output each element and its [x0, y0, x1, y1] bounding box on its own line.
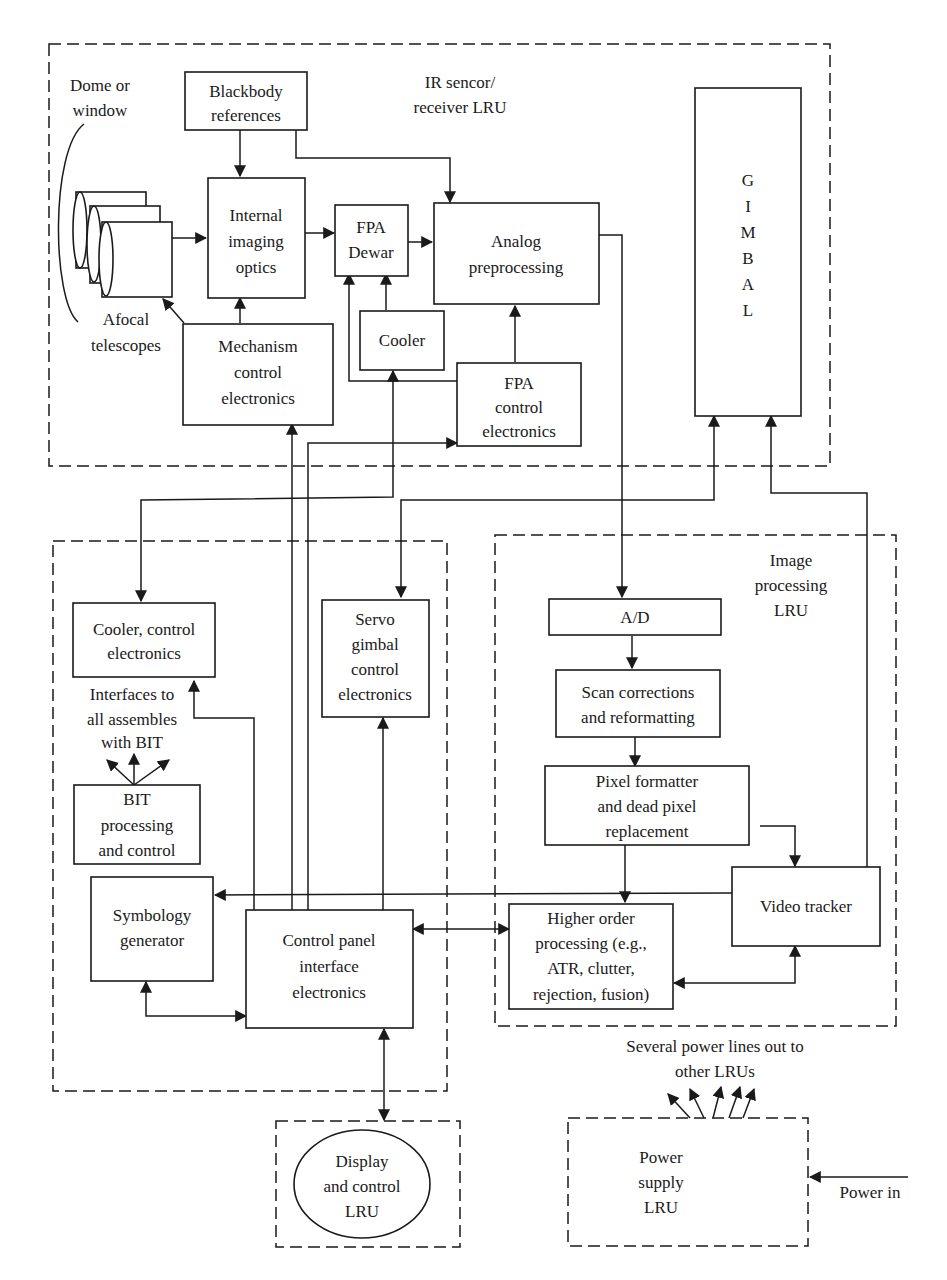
svg-text:and control: and control: [99, 841, 176, 860]
image-processing-lru-label: Image processing LRU: [755, 551, 828, 620]
dome-window-label: Dome or window: [70, 76, 130, 120]
svg-text:Higher order: Higher order: [547, 909, 635, 928]
svg-text:control: control: [351, 660, 399, 679]
svg-text:processing: processing: [755, 576, 828, 595]
svg-text:LRU: LRU: [345, 1202, 379, 1221]
power-supply-lru-label: Power supply LRU: [638, 1148, 684, 1217]
svg-text:Cooler: Cooler: [379, 331, 426, 350]
svg-text:A/D: A/D: [620, 608, 649, 627]
block-cooler[interactable]: Cooler: [360, 311, 444, 370]
svg-text:control: control: [234, 363, 282, 382]
svg-text:imaging: imaging: [228, 232, 284, 251]
svg-text:I: I: [745, 197, 751, 216]
block-pixel-formatter[interactable]: Pixel formatter and dead pixel replaceme…: [545, 766, 749, 845]
block-scan-corrections[interactable]: Scan corrections and reformatting: [556, 670, 720, 737]
svg-text:Several power lines out to: Several power lines out to: [626, 1037, 804, 1056]
system-block-diagram: Blackbody references Internal imaging op…: [0, 0, 947, 1280]
svg-text:Afocal: Afocal: [103, 310, 150, 329]
svg-text:IR sencor/: IR sencor/: [425, 73, 496, 92]
afocal-telescopes-icon: [73, 192, 172, 297]
svg-text:rejection, fusion): rejection, fusion): [533, 985, 649, 1004]
block-symbology-generator[interactable]: Symbology generator: [91, 877, 213, 981]
svg-text:LRU: LRU: [774, 601, 808, 620]
power-in-label: Power in: [840, 1183, 901, 1202]
ir-sensor-lru-label: IR sencor/ receiver LRU: [414, 73, 507, 117]
svg-text:electronics: electronics: [482, 422, 556, 441]
svg-text:supply: supply: [638, 1173, 684, 1192]
interfaces-bit-label: Interfaces to all assembles with BIT: [87, 685, 177, 752]
block-mechanism-control-electronics[interactable]: Mechanism control electronics: [183, 324, 333, 425]
svg-text:receiver LRU: receiver LRU: [414, 98, 507, 117]
svg-text:Mechanism: Mechanism: [218, 337, 297, 356]
afocal-telescopes-label: Afocal telescopes: [91, 310, 161, 355]
block-internal-imaging-optics[interactable]: Internal imaging optics: [208, 178, 305, 298]
svg-text:and dead pixel: and dead pixel: [597, 797, 696, 816]
svg-text:and reformatting: and reformatting: [581, 708, 695, 727]
svg-text:LRU: LRU: [644, 1198, 678, 1217]
svg-text:Image: Image: [770, 551, 812, 570]
svg-text:FPA: FPA: [504, 374, 534, 393]
svg-text:other LRUs: other LRUs: [675, 1062, 755, 1081]
svg-text:processing (e.g.,: processing (e.g.,: [535, 934, 646, 953]
svg-text:electronics: electronics: [107, 644, 181, 663]
svg-text:Dewar: Dewar: [348, 243, 394, 262]
svg-text:B: B: [742, 249, 753, 268]
svg-text:Pixel formatter: Pixel formatter: [596, 772, 699, 791]
svg-text:BIT: BIT: [123, 790, 151, 809]
svg-text:G: G: [742, 171, 754, 190]
power-lines-out-label: Several power lines out to other LRUs: [626, 1037, 804, 1081]
svg-text:Power: Power: [639, 1148, 683, 1167]
svg-text:Control panel: Control panel: [282, 931, 375, 950]
svg-text:Blackbody: Blackbody: [209, 82, 283, 101]
svg-text:L: L: [743, 301, 753, 320]
svg-text:Power in: Power in: [840, 1183, 901, 1202]
block-cooler-control-electronics[interactable]: Cooler, control electronics: [73, 603, 215, 677]
block-display-control[interactable]: Display and control LRU: [294, 1130, 430, 1238]
svg-text:Display: Display: [336, 1152, 389, 1171]
svg-text:M: M: [740, 223, 755, 242]
block-gimbal[interactable]: G I M B A L: [695, 88, 801, 416]
block-ad-converter[interactable]: A/D: [549, 599, 721, 635]
svg-text:with BIT: with BIT: [101, 733, 163, 752]
power-supply-lru-group: [568, 1118, 808, 1246]
svg-text:all assembles: all assembles: [87, 710, 177, 729]
svg-text:telescopes: telescopes: [91, 336, 161, 355]
svg-text:FPA: FPA: [356, 218, 386, 237]
svg-text:Analog: Analog: [491, 232, 542, 251]
svg-text:Scan corrections: Scan corrections: [582, 683, 695, 702]
svg-text:electronics: electronics: [221, 389, 295, 408]
block-analog-preprocessing[interactable]: Analog preprocessing: [434, 203, 599, 304]
svg-text:Dome or: Dome or: [70, 76, 130, 95]
block-fpa-dewar[interactable]: FPA Dewar: [335, 205, 408, 276]
block-blackbody-references[interactable]: Blackbody references: [185, 72, 307, 130]
svg-text:window: window: [73, 101, 129, 120]
svg-text:generator: generator: [120, 931, 185, 950]
block-fpa-control-electronics[interactable]: FPA control electronics: [457, 363, 581, 446]
svg-text:electronics: electronics: [292, 983, 366, 1002]
svg-text:optics: optics: [236, 258, 277, 277]
svg-text:Video tracker: Video tracker: [760, 897, 852, 916]
svg-text:Symbology: Symbology: [113, 906, 192, 925]
svg-text:Servo: Servo: [355, 610, 395, 629]
block-higher-order-processing[interactable]: Higher order processing (e.g., ATR, clut…: [509, 904, 673, 1009]
block-control-panel-interface[interactable]: Control panel interface electronics: [246, 910, 413, 1028]
svg-text:interface: interface: [299, 957, 358, 976]
svg-text:replacement: replacement: [605, 822, 688, 841]
svg-text:processing: processing: [101, 816, 174, 835]
svg-text:A: A: [742, 275, 755, 294]
block-video-tracker[interactable]: Video tracker: [732, 867, 880, 946]
svg-text:Cooler, control: Cooler, control: [93, 620, 196, 639]
svg-text:Interfaces to: Interfaces to: [90, 685, 174, 704]
block-bit-processing[interactable]: BIT processing and control: [74, 785, 200, 864]
svg-text:and control: and control: [324, 1177, 401, 1196]
svg-text:gimbal: gimbal: [351, 635, 398, 654]
block-servo-gimbal-control[interactable]: Servo gimbal control electronics: [322, 600, 429, 717]
svg-text:electronics: electronics: [338, 685, 412, 704]
svg-text:ATR, clutter,: ATR, clutter,: [547, 959, 635, 978]
svg-text:control: control: [495, 398, 543, 417]
svg-text:references: references: [211, 106, 281, 125]
svg-text:preprocessing: preprocessing: [469, 258, 564, 277]
svg-text:Internal: Internal: [230, 206, 283, 225]
